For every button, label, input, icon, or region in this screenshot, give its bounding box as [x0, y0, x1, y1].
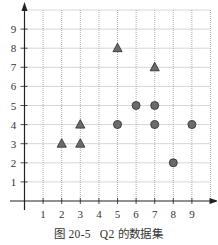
y-tick-label: 1 — [11, 176, 17, 188]
y-axis-arrow-icon — [22, 2, 28, 11]
y-tick-label: 3 — [11, 138, 17, 150]
x-tick-label: 4 — [96, 208, 102, 220]
triangle-marker-icon — [57, 139, 66, 148]
y-tick-label: 7 — [11, 61, 17, 73]
triangle-marker-icon — [150, 62, 159, 71]
figure-title: Q2 的数据集 — [100, 228, 163, 240]
x-axis-arrow-icon — [210, 198, 218, 204]
x-tick-label: 3 — [78, 208, 84, 220]
x-tick-label: 1 — [40, 208, 46, 220]
scatter-chart: 123456789123456789 — [0, 0, 217, 225]
triangle-marker-icon — [76, 120, 85, 129]
x-tick-label: 9 — [189, 208, 195, 220]
circle-marker-icon — [188, 121, 196, 129]
x-tick-label: 5 — [115, 208, 121, 220]
y-tick-label: 2 — [11, 157, 17, 169]
y-tick-label: 6 — [11, 80, 17, 92]
tick-labels: 123456789123456789 — [11, 23, 195, 220]
axes — [10, 2, 217, 210]
triangle-marker-icon — [113, 43, 122, 52]
circle-marker-icon — [114, 121, 122, 129]
data-points — [57, 43, 196, 167]
x-tick-label: 2 — [59, 208, 65, 220]
figure-number: 图 20-5 — [54, 228, 91, 240]
figure-caption: 图 20-5Q2 的数据集 — [0, 225, 217, 241]
circle-marker-icon — [151, 121, 159, 129]
circle-marker-icon — [169, 159, 177, 167]
y-tick-label: 8 — [11, 42, 17, 54]
y-tick-label: 9 — [11, 23, 17, 35]
grid-lines — [25, 10, 211, 201]
triangle-marker-icon — [76, 139, 85, 148]
x-tick-label: 6 — [133, 208, 139, 220]
circle-marker-icon — [132, 102, 140, 110]
y-tick-label: 5 — [11, 100, 17, 112]
x-tick-label: 7 — [152, 208, 158, 220]
y-tick-label: 4 — [11, 119, 17, 131]
circle-marker-icon — [151, 102, 159, 110]
x-tick-label: 8 — [171, 208, 177, 220]
